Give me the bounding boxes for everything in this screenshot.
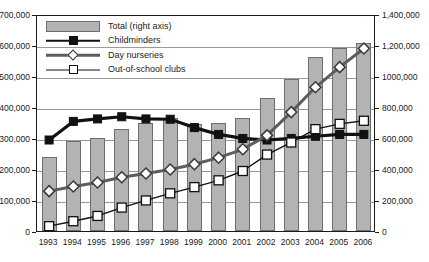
marker-filled-square bbox=[45, 136, 53, 144]
legend-label-out-of-school-clubs: Out-of-school clubs bbox=[102, 65, 186, 74]
marker-open-diamond bbox=[116, 172, 127, 183]
legend-item-out-of-school-clubs: Out-of-school clubs bbox=[44, 63, 194, 78]
marker-open-diamond bbox=[189, 159, 200, 170]
marker-open-square bbox=[69, 217, 78, 226]
left-axis-tick-label: 200,000 bbox=[0, 166, 30, 175]
marker-filled-square bbox=[190, 124, 198, 132]
right-axis-tickmark bbox=[375, 108, 379, 109]
marker-open-square bbox=[190, 183, 199, 192]
marker-open-diamond bbox=[92, 177, 103, 188]
left-axis-tick-label: 700,000 bbox=[0, 11, 30, 20]
x-axis-tick-label: 2006 bbox=[351, 238, 375, 247]
chart-container: 0100,000200,000300,000400,000500,000600,… bbox=[0, 0, 429, 262]
right-axis-tickmark bbox=[375, 139, 379, 140]
legend-item-day-nurseries: Day nurseries bbox=[44, 48, 194, 63]
marker-open-square bbox=[117, 203, 126, 212]
marker-open-square bbox=[311, 125, 320, 134]
marker-open-square bbox=[93, 211, 102, 220]
bar-swatch-icon bbox=[44, 19, 102, 33]
marker-open-diamond bbox=[68, 181, 79, 192]
marker-filled-square bbox=[360, 130, 368, 138]
marker-filled-square bbox=[336, 130, 344, 138]
marker-filled-square bbox=[215, 130, 223, 138]
left-axis-tick-label: 0 bbox=[25, 228, 30, 237]
x-axis-tick-label: 1999 bbox=[181, 238, 205, 247]
x-axis-tick-label: 1997 bbox=[133, 238, 157, 247]
x-axis-tick-label: 2001 bbox=[230, 238, 254, 247]
right-axis-tickmark bbox=[375, 201, 379, 202]
x-axis-tick-label: 1996 bbox=[109, 238, 133, 247]
right-axis-tick-label: 1,200,000 bbox=[382, 42, 420, 51]
marker-open-diamond bbox=[140, 168, 151, 179]
x-axis-tick-label: 1993 bbox=[36, 238, 60, 247]
marker-open-square bbox=[214, 176, 223, 185]
x-axis-tick-label: 2005 bbox=[327, 238, 351, 247]
right-axis-tick-label: 600,000 bbox=[382, 135, 413, 144]
x-axis-tick-label: 2003 bbox=[278, 238, 302, 247]
left-axis-tick-label: 500,000 bbox=[0, 73, 30, 82]
left-axis-tick-label: 300,000 bbox=[0, 135, 30, 144]
legend-label-childminders: Childminders bbox=[102, 36, 161, 45]
marker-open-square bbox=[287, 138, 296, 147]
marker-open-square bbox=[359, 116, 368, 125]
right-axis-tick-label: 400,000 bbox=[382, 166, 413, 175]
x-axis-tick-label: 2002 bbox=[254, 238, 278, 247]
marker-filled-square bbox=[239, 134, 247, 142]
right-axis-tickmark bbox=[375, 170, 379, 171]
line-series-open-square bbox=[45, 116, 369, 230]
line-open-square-icon bbox=[44, 63, 102, 77]
x-axis-tick-label: 1995 bbox=[84, 238, 108, 247]
right-axis-tick-label: 800,000 bbox=[382, 104, 413, 113]
x-axis-tick-label: 1994 bbox=[60, 238, 84, 247]
line-filled-square-icon bbox=[44, 34, 102, 48]
x-axis-tick-label: 2004 bbox=[302, 238, 326, 247]
left-axis-tick-label: 600,000 bbox=[0, 42, 30, 51]
marker-open-square bbox=[263, 150, 272, 159]
marker-open-diamond bbox=[44, 186, 55, 197]
right-axis-tickmark bbox=[375, 77, 379, 78]
legend-label-total: Total (right axis) bbox=[102, 22, 172, 31]
x-axis-tick-label: 2000 bbox=[206, 238, 230, 247]
marker-filled-square bbox=[118, 113, 126, 121]
marker-open-square bbox=[166, 189, 175, 198]
right-axis-tickmark bbox=[375, 15, 379, 16]
x-axis-tick-label: 1998 bbox=[157, 238, 181, 247]
marker-open-square bbox=[141, 196, 150, 205]
right-axis-tick-label: 1,400,000 bbox=[382, 11, 420, 20]
left-axis-tick-label: 400,000 bbox=[0, 104, 30, 113]
marker-filled-square bbox=[166, 115, 174, 123]
legend-label-day-nurseries: Day nurseries bbox=[102, 51, 164, 60]
legend-item-childminders: Childminders bbox=[44, 34, 194, 49]
left-axis-tick-label: 100,000 bbox=[0, 197, 30, 206]
left-axis-tickmark bbox=[32, 232, 36, 233]
marker-open-square bbox=[335, 119, 344, 128]
right-axis-tick-label: 200,000 bbox=[382, 197, 413, 206]
marker-filled-square bbox=[142, 115, 150, 123]
marker-open-square bbox=[238, 167, 247, 176]
right-axis-tickmark bbox=[375, 232, 379, 233]
legend-item-total: Total (right axis) bbox=[44, 19, 194, 34]
marker-open-diamond bbox=[213, 152, 224, 163]
marker-filled-square bbox=[69, 117, 77, 125]
chart-legend: Total (right axis) Childminders Day nurs… bbox=[44, 19, 194, 77]
line-open-diamond-icon bbox=[44, 48, 102, 62]
right-axis-tickmark bbox=[375, 46, 379, 47]
right-axis-tick-label: 1000,000 bbox=[382, 73, 417, 82]
marker-filled-square bbox=[94, 115, 102, 123]
right-axis-tick-label: 0 bbox=[382, 228, 387, 237]
marker-open-square bbox=[45, 222, 54, 231]
marker-open-diamond bbox=[165, 164, 176, 175]
